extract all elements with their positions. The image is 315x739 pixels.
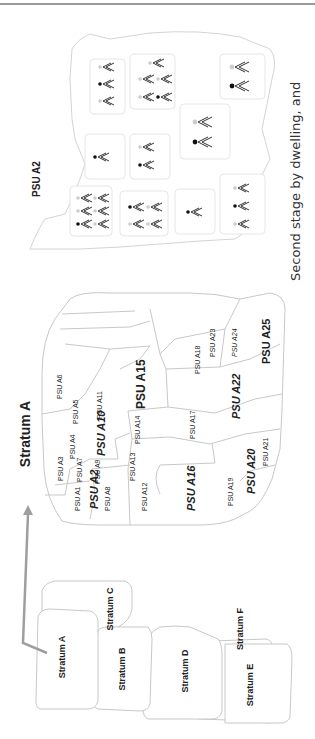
stratum-c-label: Stratum C xyxy=(105,587,115,631)
stratum-e-region xyxy=(225,644,292,723)
psu-label: PSU A6 xyxy=(56,374,63,399)
stratum-f-label: Stratum F xyxy=(235,608,245,651)
psu-label: PSU A13 xyxy=(129,452,136,481)
psu-label: PSU A23 xyxy=(209,328,216,357)
psu-label-selected: PSU A16 xyxy=(185,465,197,511)
stratum-e-label: Stratum E xyxy=(245,664,255,707)
dwelling-box xyxy=(120,191,168,236)
figure-canvas: Stratum A Stratum B Stratum C Stratum D … xyxy=(0,0,315,739)
psu-a2-detail: PSU A2 xyxy=(30,32,275,249)
psu-label-selected: PSU A25 xyxy=(260,319,272,364)
psu-label: PSU A12 xyxy=(141,482,148,511)
psu-label: PSU A21 xyxy=(262,437,269,466)
dwelling-box xyxy=(180,104,230,159)
psu-label: PSU A9 xyxy=(94,459,101,484)
dwelling-box xyxy=(220,54,265,99)
psu-label: PSU A14 xyxy=(134,415,141,444)
stratum-detail-title: Stratum A xyxy=(17,401,33,467)
psu-label-selected: PSU A20 xyxy=(245,448,257,494)
psu-label: PSU A7 xyxy=(76,457,83,482)
psu-label: PSU A8 xyxy=(104,486,111,511)
psu-label: PSU A18 xyxy=(194,345,201,374)
psu-label: PSU A5 xyxy=(72,399,79,424)
stratum-d-label: Stratum D xyxy=(180,649,190,693)
stratum-b-label: Stratum B xyxy=(117,647,127,691)
psu-label: PSU A24 xyxy=(231,328,238,357)
dwelling-box xyxy=(85,134,125,179)
psu-label: PSU A1 xyxy=(74,486,81,511)
psu-label: PSU A19 xyxy=(227,477,234,506)
psu-label: PSU A4 xyxy=(69,434,76,459)
psu-label: PSU A11 xyxy=(96,391,103,419)
psu-detail-title: PSU A2 xyxy=(31,161,42,197)
arrow-head-icon xyxy=(23,505,33,515)
psu-label: PSU A3 xyxy=(57,456,64,481)
stratum-a-label: Stratum A xyxy=(57,635,67,678)
figure-caption: Second stage by dwelling, and xyxy=(288,82,303,281)
diagram-svg: Stratum A Stratum B Stratum C Stratum D … xyxy=(0,0,315,739)
stratum-a-detail: Stratum A xyxy=(17,293,285,525)
dwelling-box xyxy=(130,134,170,179)
psu-label: PSU A17 xyxy=(189,410,196,439)
psu-label-selected: PSU A22 xyxy=(230,374,242,419)
psu-label-selected: PSU A15 xyxy=(134,359,148,409)
